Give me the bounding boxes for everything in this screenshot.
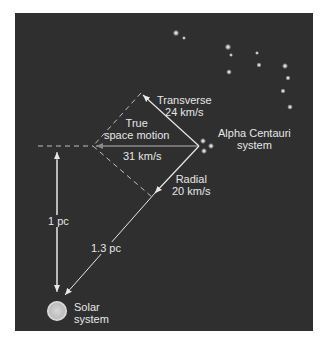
transverse-text: Transverse <box>157 94 212 106</box>
radial-speed: 20 km/s <box>172 185 211 197</box>
solar-system-text-1: Solar <box>74 301 109 313</box>
sun-icon <box>47 301 67 321</box>
true-motion-label: True space motion <box>104 117 169 141</box>
alpha-centauri-label: Alpha Centauri system <box>218 127 291 151</box>
alpha-centauri-text-1: Alpha Centauri <box>218 127 291 139</box>
solar-system-label: Solar system <box>74 301 109 325</box>
line-of-sight-label: 1.3 pc <box>90 242 122 254</box>
transverse-label: Transverse 24 km/s <box>157 94 212 118</box>
diagram-graphics <box>0 0 329 344</box>
true-motion-text-2: space motion <box>104 129 169 141</box>
true-speed-label: 31 km/s <box>123 150 162 162</box>
alpha-centauri-icon <box>200 138 214 154</box>
radial-label: Radial 20 km/s <box>172 173 211 197</box>
solar-system-text-2: system <box>74 313 109 325</box>
vector-construction-dashes <box>38 93 152 197</box>
true-motion-text-1: True <box>104 117 169 129</box>
one-parsec-label: 1 pc <box>47 215 70 227</box>
alpha-centauri-text-2: system <box>218 139 291 151</box>
radial-text: Radial <box>172 173 211 185</box>
